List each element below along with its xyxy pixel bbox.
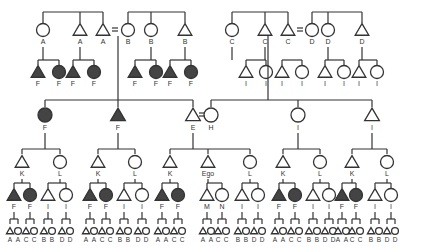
kinship-diagram: AAABBBCCCDDDFFFFFFFFIIIIIIIIFFEHIIKLKLKE… [0,0,421,249]
kin-label: B [244,236,248,243]
gen5-triangle-icon [305,228,312,234]
kin-label: I [265,80,267,87]
gen5-circle-icon [31,228,38,235]
kin-label: B [315,236,319,243]
kin-label: F [104,203,108,210]
gen3-circle-icon [314,156,327,169]
gen2-main-triangle-icon [186,108,201,121]
gen1-triangle-icon [73,24,87,36]
gen1-circle-icon [226,24,239,37]
gen5-triangle-icon [58,228,65,234]
kin-label: F [293,203,297,210]
gen5-circle-icon [67,228,74,235]
kin-label: D [309,38,314,45]
kin-label: I [245,80,247,87]
gen4-triangle-icon [368,189,382,201]
kin-label: A [16,236,21,243]
gen5-triangle-icon [154,228,161,234]
gen4-triangle-icon [83,189,97,201]
gen5-circle-icon [179,228,186,235]
gen4-circle-icon [252,189,265,202]
gen3-circle-icon [244,156,257,169]
gen5-circle-icon [296,228,303,235]
gen3-circle-icon [54,156,67,169]
gen2-main-circle-icon [38,108,52,122]
gen2-side-circle-icon [260,66,273,79]
kin-label: I [343,80,345,87]
gen2-side-triangle-icon [163,66,177,78]
kin-label: A [156,236,161,243]
kin-label: D [323,236,328,243]
gen5-triangle-icon [170,228,177,234]
gen4-circle-icon [216,189,229,202]
gen4-circle-icon [172,189,185,202]
kin-label: K [281,170,286,177]
kin-label: B [236,236,240,243]
gen5-triangle-icon [82,228,89,234]
kin-label: C [229,38,234,45]
kin-label: F [57,80,61,87]
kin-label: I [297,124,299,131]
gen5-triangle-icon [383,228,390,234]
kin-label: F [176,203,180,210]
kin-label: C [216,236,221,243]
gen3-triangle-icon [345,156,359,168]
gen5-circle-icon [314,228,321,235]
kin-label: B [369,236,373,243]
gen2-main-triangle-icon [111,108,126,121]
gen3-triangle-icon [276,156,290,168]
kin-label: L [58,170,62,177]
gen4-circle-icon [60,189,73,202]
kin-label: F [71,80,75,87]
gen2-side-circle-icon [88,66,101,79]
kin-label: C [297,236,302,243]
kin-label: D [325,38,330,45]
gen5-circle-icon [280,228,287,235]
kin-label: B [50,236,54,243]
kin-label: I [281,80,283,87]
kin-label: F [12,203,16,210]
gen5-triangle-icon [199,228,206,234]
gen2-side-triangle-icon [128,66,142,78]
kin-label: C [358,236,363,243]
gen5-triangle-icon [40,228,47,234]
kin-label: I [374,203,376,210]
kin-label: L [133,170,137,177]
kin-label: F [160,203,164,210]
gen1-triangle-icon [178,24,192,36]
kin-label: C [285,38,290,45]
kin-label: F [133,80,137,87]
gen4-circle-icon [136,189,149,202]
kin-label: E [191,124,196,131]
kin-label: A [164,236,169,243]
kin-label: C [32,236,37,243]
kin-label: D [136,236,141,243]
gen5-triangle-icon [6,228,13,234]
gen5-circle-icon [163,228,170,235]
kin-label: B [307,236,311,243]
gen4-triangle-icon [41,189,55,201]
gen4-triangle-icon [155,189,169,201]
kin-label: D [252,236,257,243]
gen5-triangle-icon [287,228,294,234]
gen5-triangle-icon [271,228,278,234]
kin-label: N [219,203,224,210]
gen2-side-triangle-icon [318,66,332,78]
gen5-triangle-icon [22,228,29,234]
kin-label: I [65,203,67,210]
kin-label: Ego [202,170,215,178]
gen4-triangle-icon [117,189,131,201]
kin-label: K [96,170,101,177]
kin-label: B [42,236,46,243]
gen5-circle-icon [392,228,399,235]
kin-label: I [376,80,378,87]
gen3-triangle-icon [201,156,215,168]
kin-label: C [180,236,185,243]
kin-label: C [350,236,355,243]
kin-label: F [88,203,92,210]
kin-label: F [154,80,158,87]
gen5-circle-icon [125,228,132,235]
gen5-triangle-icon [321,228,328,234]
kin-label: I [390,203,392,210]
gen2-side-triangle-icon [31,66,45,78]
